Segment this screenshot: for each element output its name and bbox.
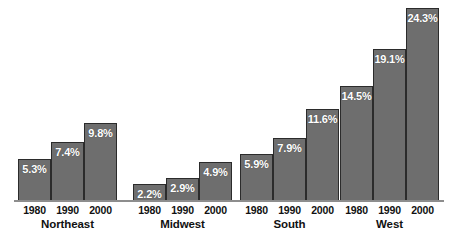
bar-midwest-2000[interactable]: 4.9% xyxy=(199,162,232,201)
bar-group-midwest: 2.2% 2.9% 4.9% xyxy=(133,6,232,201)
bar-south-2000[interactable]: 11.6% xyxy=(306,109,339,201)
year-tick-label: 1990 xyxy=(51,204,84,216)
bar-south-1990[interactable]: 7.9% xyxy=(273,138,306,201)
year-tick-label: 1990 xyxy=(273,204,306,216)
year-row: 1980 1990 2000 xyxy=(18,204,117,216)
bar-south-1980[interactable]: 5.9% xyxy=(240,154,273,201)
bar-value-label: 2.2% xyxy=(137,188,161,200)
bar-northeast-1980[interactable]: 5.3% xyxy=(18,159,51,201)
axis-labels-south: 1980 1990 2000 South xyxy=(240,204,339,230)
region-name-label: Midwest xyxy=(133,218,232,230)
bar-value-label: 4.9% xyxy=(203,166,227,178)
bar-northeast-1990[interactable]: 7.4% xyxy=(51,142,84,201)
bar-west-2000[interactable]: 24.3% xyxy=(406,8,439,201)
region-name-label: South xyxy=(240,218,339,230)
bar-group-west: 14.5% 19.1% 24.3% xyxy=(340,6,439,201)
bar-northeast-2000[interactable]: 9.8% xyxy=(84,123,117,201)
year-tick-label: 2000 xyxy=(199,204,232,216)
bar-value-label: 5.9% xyxy=(244,158,268,170)
year-tick-label: 1980 xyxy=(240,204,273,216)
year-row: 1980 1990 2000 xyxy=(240,204,339,216)
bar-west-1990[interactable]: 19.1% xyxy=(373,49,406,201)
year-row: 1980 1990 2000 xyxy=(133,204,232,216)
bar-value-label: 9.8% xyxy=(88,127,112,139)
year-tick-label: 2000 xyxy=(406,204,439,216)
bar-value-label: 11.6% xyxy=(308,113,338,125)
region-name-label: Northeast xyxy=(18,218,117,230)
bar-group-northeast: 5.3% 7.4% 9.8% xyxy=(18,6,117,201)
bar-value-label: 5.3% xyxy=(22,163,46,175)
x-axis-baseline xyxy=(14,200,444,202)
bar-value-label: 2.9% xyxy=(170,182,194,194)
bar-value-label: 14.5% xyxy=(341,90,371,102)
bar-value-label: 7.9% xyxy=(277,142,301,154)
bar-group-south: 5.9% 7.9% 11.6% xyxy=(240,6,339,201)
year-tick-label: 2000 xyxy=(84,204,117,216)
axis-labels-west: 1980 1990 2000 West xyxy=(340,204,439,230)
year-row: 1980 1990 2000 xyxy=(340,204,439,216)
axis-labels-northeast: 1980 1990 2000 Northeast xyxy=(18,204,117,230)
year-tick-label: 1990 xyxy=(166,204,199,216)
bar-midwest-1990[interactable]: 2.9% xyxy=(166,178,199,201)
plot-area: 5.3% 7.4% 9.8% 2.2% 2.9% 4.9% 5.9% xyxy=(0,0,457,201)
year-tick-label: 1980 xyxy=(340,204,373,216)
year-tick-label: 1980 xyxy=(18,204,51,216)
bar-value-label: 24.3% xyxy=(407,12,437,24)
year-tick-label: 1990 xyxy=(373,204,406,216)
bar-midwest-1980[interactable]: 2.2% xyxy=(133,184,166,201)
axis-labels-midwest: 1980 1990 2000 Midwest xyxy=(133,204,232,230)
region-name-label: West xyxy=(340,218,439,230)
bar-west-1980[interactable]: 14.5% xyxy=(340,86,373,201)
bar-chart: 5.3% 7.4% 9.8% 2.2% 2.9% 4.9% 5.9% xyxy=(0,0,457,240)
bar-value-label: 7.4% xyxy=(55,146,79,158)
year-tick-label: 2000 xyxy=(306,204,339,216)
year-tick-label: 1980 xyxy=(133,204,166,216)
bar-value-label: 19.1% xyxy=(374,53,404,65)
